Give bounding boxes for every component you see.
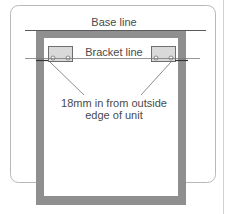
wall-unit-bracket-diagram: Base line Bracket line 18mm in from outs… — [0, 0, 226, 214]
base-line-label: Base line — [0, 16, 226, 28]
offset-note-line1: 18mm in from outside — [51, 97, 177, 109]
bracket-line-label: Bracket line — [0, 46, 226, 58]
offset-note-line2: edge of unit — [51, 109, 177, 121]
unit-bottom-panel — [44, 196, 178, 205]
offset-note: 18mm in from outside edge of unit — [50, 97, 178, 121]
unit-top-panel — [44, 31, 178, 38]
